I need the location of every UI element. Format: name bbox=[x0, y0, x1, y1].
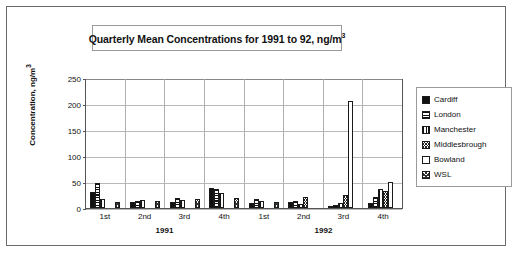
legend-item-cardiff[interactable]: Cardiff bbox=[422, 92, 507, 107]
y-tick-label-100: 100 bbox=[68, 153, 81, 162]
legend-swatch-cardiff-icon bbox=[422, 96, 430, 104]
bar-wsl-4 bbox=[234, 198, 239, 208]
bar-manchester-3 bbox=[180, 200, 185, 208]
plot-area: 250200150100500 bbox=[85, 79, 403, 209]
plot-wrapper: 250200150100500 bbox=[85, 79, 403, 209]
y-axis-title-text: Concentration, ng/m bbox=[28, 68, 37, 146]
bar-middlesbrough-6 bbox=[303, 197, 308, 208]
x-year-label-1991: 1991 bbox=[85, 226, 244, 240]
x-tick-label-8: 4th bbox=[363, 212, 403, 226]
chart-legend: CardiffLondonManchesterMiddlesbroughBowl… bbox=[416, 87, 512, 187]
legend-item-middlesbrough[interactable]: Middlesbrough bbox=[422, 137, 507, 152]
y-tick-label-200: 200 bbox=[68, 101, 81, 110]
legend-label-cardiff: Cardiff bbox=[434, 95, 457, 104]
x-tick-label-3: 3rd bbox=[165, 212, 205, 226]
bar-groups bbox=[86, 79, 402, 208]
bar-group-7 bbox=[324, 79, 364, 208]
bar-wsl-2 bbox=[155, 201, 160, 208]
bar-manchester-2 bbox=[140, 200, 145, 208]
bar-group-1 bbox=[86, 79, 126, 208]
x-axis-year-labels: 19911992 bbox=[85, 226, 403, 240]
y-axis-title-superscript: 3 bbox=[25, 64, 32, 68]
x-tick-label-5: 1st bbox=[244, 212, 284, 226]
legend-label-manchester: Manchester bbox=[434, 125, 476, 134]
bar-group-6 bbox=[284, 79, 324, 208]
legend-swatch-london-icon bbox=[422, 111, 430, 119]
legend-item-manchester[interactable]: Manchester bbox=[422, 122, 507, 137]
legend-item-bowland[interactable]: Bowland bbox=[422, 152, 507, 167]
chart-title-superscript: 3 bbox=[342, 32, 346, 39]
x-tick-label-6: 2nd bbox=[284, 212, 324, 226]
bar-manchester-4 bbox=[219, 193, 224, 208]
chart-screenshot: Quarterly Mean Concentrations for 1991 t… bbox=[0, 0, 515, 254]
y-tick-label-150: 150 bbox=[68, 127, 81, 136]
bar-wsl-1 bbox=[115, 202, 120, 208]
legend-label-london: London bbox=[434, 110, 461, 119]
bar-group-5 bbox=[245, 79, 285, 208]
bar-bowland-7 bbox=[348, 101, 353, 208]
x-tick-label-4: 4th bbox=[204, 212, 244, 226]
y-axis-title: Concentration, ng/m3 bbox=[25, 45, 37, 165]
legend-label-bowland: Bowland bbox=[434, 155, 465, 164]
x-axis-tick-labels: 1st2nd3rd4th1st2nd3rd4th bbox=[85, 212, 403, 226]
bar-bowland-8 bbox=[388, 182, 393, 208]
legend-swatch-bowland-icon bbox=[422, 156, 430, 164]
gridline-0 bbox=[86, 209, 402, 210]
legend-label-wsl: WSL bbox=[434, 170, 451, 179]
bar-group-8 bbox=[363, 79, 402, 208]
legend-item-wsl[interactable]: WSL bbox=[422, 167, 507, 182]
legend-swatch-wsl-icon bbox=[422, 171, 430, 179]
x-tick-label-7: 3rd bbox=[324, 212, 364, 226]
chart-frame: Quarterly Mean Concentrations for 1991 t… bbox=[6, 6, 506, 246]
bar-wsl-3 bbox=[195, 199, 200, 208]
bar-manchester-1 bbox=[100, 199, 105, 208]
chart-title-box: Quarterly Mean Concentrations for 1991 t… bbox=[92, 25, 342, 51]
x-year-label-1992: 1992 bbox=[244, 226, 403, 240]
y-tick-label-0: 0 bbox=[77, 205, 81, 214]
x-tick-label-2: 2nd bbox=[125, 212, 165, 226]
page-title: Quarterly Mean Concentrations for 1991 t… bbox=[89, 32, 346, 45]
x-tick-label-1: 1st bbox=[85, 212, 125, 226]
legend-swatch-manchester-icon bbox=[422, 126, 430, 134]
bar-group-2 bbox=[126, 79, 166, 208]
bar-group-3 bbox=[165, 79, 205, 208]
legend-item-london[interactable]: London bbox=[422, 107, 507, 122]
bar-group-4 bbox=[205, 79, 245, 208]
y-tick-label-50: 50 bbox=[72, 179, 81, 188]
legend-label-middlesbrough: Middlesbrough bbox=[434, 140, 486, 149]
bar-wsl-5 bbox=[274, 202, 279, 208]
y-tick-mark-0 bbox=[83, 209, 86, 210]
y-tick-label-250: 250 bbox=[68, 75, 81, 84]
legend-swatch-middlesbrough-icon bbox=[422, 141, 430, 149]
chart-title-text: Quarterly Mean Concentrations for 1991 t… bbox=[89, 32, 342, 44]
bar-manchester-5 bbox=[259, 201, 264, 208]
